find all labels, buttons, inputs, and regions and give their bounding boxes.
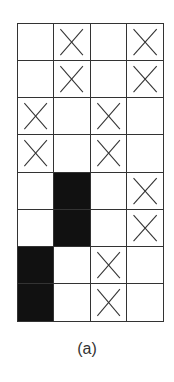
- crossed-cell: [18, 135, 54, 172]
- cross-icon: [91, 98, 126, 134]
- cross-icon: [127, 173, 163, 209]
- filled-cell: [54, 173, 90, 210]
- crossed-cell: [91, 98, 127, 135]
- cell-grid: [17, 23, 164, 322]
- empty-cell: [18, 210, 54, 247]
- cross-icon: [54, 24, 89, 60]
- empty-cell: [91, 61, 127, 98]
- empty-cell: [127, 98, 163, 135]
- crossed-cell: [127, 173, 163, 210]
- cross-icon: [91, 247, 126, 283]
- crossed-cell: [127, 210, 163, 247]
- empty-cell: [127, 284, 163, 321]
- empty-cell: [18, 173, 54, 210]
- empty-cell: [18, 24, 54, 61]
- cross-icon: [18, 135, 53, 171]
- crossed-cell: [91, 284, 127, 321]
- crossed-cell: [127, 61, 163, 98]
- crossed-cell: [18, 98, 54, 135]
- empty-cell: [54, 135, 90, 172]
- filled-cell: [18, 247, 54, 284]
- empty-cell: [54, 98, 90, 135]
- crossed-cell: [91, 135, 127, 172]
- crossed-cell: [127, 24, 163, 61]
- crossed-cell: [54, 61, 90, 98]
- empty-cell: [54, 284, 90, 321]
- empty-cell: [127, 135, 163, 172]
- crossed-cell: [91, 247, 127, 284]
- empty-cell: [54, 247, 90, 284]
- figure-caption: (a): [0, 340, 174, 358]
- cross-icon: [127, 210, 163, 246]
- empty-cell: [91, 173, 127, 210]
- empty-cell: [127, 247, 163, 284]
- empty-cell: [18, 61, 54, 98]
- cross-icon: [91, 135, 126, 171]
- cross-icon: [18, 98, 53, 134]
- cross-icon: [127, 61, 163, 97]
- cross-icon: [54, 61, 89, 97]
- filled-cell: [54, 210, 90, 247]
- filled-cell: [18, 284, 54, 321]
- cross-icon: [91, 284, 126, 321]
- cross-icon: [127, 24, 163, 60]
- empty-cell: [91, 24, 127, 61]
- crossed-cell: [54, 24, 90, 61]
- empty-cell: [91, 210, 127, 247]
